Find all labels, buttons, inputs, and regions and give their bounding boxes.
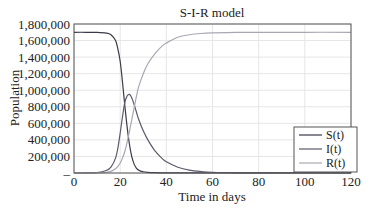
x-tick-label: 80 [252, 174, 265, 189]
y-tick-label: 800,000 [28, 99, 70, 114]
y-axis-label: Population [7, 69, 22, 126]
x-tick-label: 60 [206, 174, 219, 189]
sir-chart: S-I-R model –200,000400,000600,000800,00… [0, 0, 371, 211]
legend-label: I(t) [326, 142, 341, 156]
y-tick-label: 1,400,000 [18, 50, 70, 65]
y-tick-label: 600,000 [28, 116, 70, 131]
y-tick-label: 200,000 [28, 149, 70, 164]
y-tick-label: 1,000,000 [18, 83, 70, 98]
x-tick-label: 100 [295, 174, 315, 189]
legend-label: S(t) [326, 128, 344, 142]
y-tick-label: 1,600,000 [18, 33, 70, 48]
y-axis-ticks: –200,000400,000600,000800,0001,000,0001,… [18, 17, 71, 181]
x-tick-label: 20 [114, 174, 127, 189]
x-tick-label: 0 [71, 174, 78, 189]
x-tick-label: 120 [341, 174, 361, 189]
legend-label: R(t) [326, 156, 345, 170]
legend: S(t)I(t)R(t) [294, 127, 357, 172]
x-axis-label: Time in days [178, 189, 245, 204]
chart-title: S-I-R model [180, 5, 245, 20]
y-tick-label: 400,000 [28, 132, 70, 147]
x-tick-label: 40 [160, 174, 173, 189]
x-axis-ticks: 020406080100120 [71, 174, 361, 189]
y-tick-label: 1,800,000 [18, 17, 70, 32]
y-tick-label: – [63, 166, 71, 181]
y-tick-label: 1,200,000 [18, 66, 70, 81]
